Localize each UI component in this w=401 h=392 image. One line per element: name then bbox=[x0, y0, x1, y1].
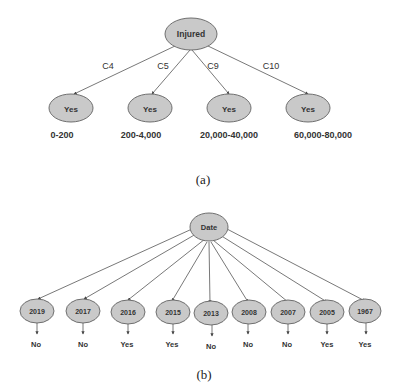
panel-a: C4 C5 C9 C10 Injured Yes Yes Yes Yes 0-2… bbox=[49, 18, 352, 187]
child-node-2017: 2017 No bbox=[66, 299, 100, 349]
child-node-2007: 2007 No bbox=[271, 300, 305, 349]
outcome-label: No bbox=[78, 340, 88, 349]
child-node-label: 2008 bbox=[241, 309, 257, 316]
edge-c9 bbox=[192, 50, 229, 94]
edge-label-c9: C9 bbox=[207, 61, 219, 71]
child-node-label: 2013 bbox=[203, 310, 219, 317]
child-node-c5: Yes bbox=[128, 94, 172, 122]
child-node-label: 2017 bbox=[75, 308, 91, 315]
edge-label-c4: C4 bbox=[102, 61, 114, 71]
outcome-label: No bbox=[206, 342, 216, 351]
outcome-label: No bbox=[31, 340, 41, 349]
child-node-2015: 2015 Yes bbox=[156, 300, 190, 349]
root-node-date: Date bbox=[190, 213, 228, 241]
outcome-label: Yes bbox=[166, 340, 179, 349]
child-node-label: 2007 bbox=[280, 309, 296, 316]
edge-2013 bbox=[209, 242, 210, 303]
child-node-label: 2005 bbox=[319, 309, 335, 316]
edge-2008 bbox=[211, 242, 248, 302]
panel-b: Date 2019 No 2017 No 2016 Yes 2015 Yes bbox=[20, 213, 381, 382]
child-node-label: Yes bbox=[143, 105, 157, 114]
child-node-label: 1967 bbox=[357, 308, 373, 315]
outcome-label: No bbox=[282, 340, 292, 349]
range-label: 60,000-80,000 bbox=[294, 130, 352, 140]
edge-2005 bbox=[220, 235, 327, 302]
child-node-2016: 2016 Yes bbox=[111, 300, 145, 349]
range-label: 200-4,000 bbox=[121, 130, 162, 140]
range-label: 20,000-40,000 bbox=[200, 130, 258, 140]
child-node-c9: Yes bbox=[207, 94, 251, 122]
edge-label-c10: C10 bbox=[263, 61, 280, 71]
root-node-label: Date bbox=[201, 223, 217, 232]
child-node-label: Yes bbox=[64, 105, 78, 114]
edge-2019 bbox=[38, 229, 192, 299]
child-node-label: 2015 bbox=[165, 309, 181, 316]
child-node-2019: 2019 No bbox=[20, 299, 54, 349]
child-node-label: Yes bbox=[301, 105, 315, 114]
child-node-label: 2019 bbox=[29, 308, 45, 315]
outcome-label: Yes bbox=[121, 340, 134, 349]
child-node-c4: Yes bbox=[49, 94, 93, 122]
edge-c5 bbox=[152, 50, 190, 94]
child-node-2013: 2013 No bbox=[194, 301, 228, 351]
child-node-c10: Yes bbox=[286, 94, 330, 122]
outcome-label: No bbox=[243, 340, 253, 349]
caption-a: (a) bbox=[196, 172, 210, 187]
root-node-injured: Injured bbox=[165, 18, 217, 50]
edge-label-c5: C5 bbox=[157, 61, 169, 71]
child-node-2005: 2005 Yes bbox=[310, 300, 344, 349]
child-node-1967: 1967 Yes bbox=[349, 299, 381, 349]
root-node-label: Injured bbox=[177, 29, 205, 39]
child-node-2008: 2008 No bbox=[232, 300, 266, 349]
decision-tree-figure: C4 C5 C9 C10 Injured Yes Yes Yes Yes 0-2… bbox=[0, 0, 401, 392]
child-node-label: 2016 bbox=[120, 309, 136, 316]
range-label: 0-200 bbox=[50, 130, 73, 140]
outcome-label: Yes bbox=[321, 340, 334, 349]
caption-b: (b) bbox=[196, 367, 211, 382]
outcome-label: Yes bbox=[359, 340, 372, 349]
child-node-label: Yes bbox=[222, 105, 236, 114]
edge-2016 bbox=[128, 239, 205, 300]
edge-1967 bbox=[227, 229, 365, 301]
